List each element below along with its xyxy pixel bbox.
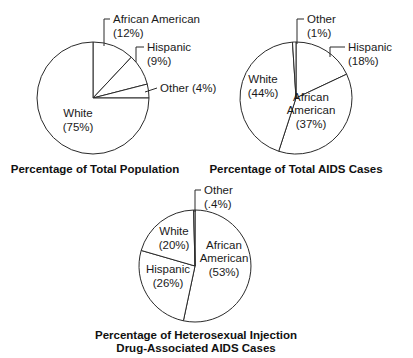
chart-title: Drug-Associated AIDS Cases — [116, 342, 275, 354]
slice-label-african-american: (12%) — [113, 27, 144, 39]
slice-label-white: (44%) — [248, 87, 279, 99]
pie-chart-percentage-of-total-population: African American(12%)Hispanic(9%)Other (… — [11, 13, 217, 175]
slice-label-hispanic: (18%) — [348, 55, 379, 67]
slice-label-african-american: American — [200, 252, 249, 264]
slice-label-african-american: American — [287, 104, 336, 116]
slice-label-other: Other (4%) — [160, 82, 216, 94]
chart-title: Percentage of Total Population — [11, 163, 179, 175]
slice-label-white: (75%) — [63, 121, 94, 133]
slice-label-hispanic: Hispanic — [147, 41, 191, 53]
slice-label-other: Other — [204, 184, 233, 196]
slice-label-african-american: African — [206, 239, 242, 251]
slice-label-hispanic: Hispanic — [146, 263, 190, 275]
slice-label-hispanic: (26%) — [153, 277, 184, 289]
slice-label-african-american: (37%) — [296, 118, 327, 130]
slice-label-white: White — [63, 107, 92, 119]
slice-label-white: White — [248, 73, 277, 85]
slice-label-hispanic: (9%) — [147, 55, 171, 67]
chart-title: Percentage of Heterosexual Injection — [95, 329, 297, 341]
pie-chart-percentage-of-total-aids-cases: Hispanic(18%)AfricanAmerican(37%)White(4… — [209, 13, 392, 175]
slice-label-other: (.4%) — [204, 198, 232, 210]
chart-title: Percentage of Total AIDS Cases — [209, 163, 382, 175]
slice-label-white: (20%) — [159, 239, 190, 251]
slice-label-african-american: (53%) — [209, 266, 240, 278]
leader-line-other — [195, 190, 201, 212]
slice-label-other: Other — [307, 13, 336, 25]
slice-label-white: White — [159, 225, 188, 237]
pie-charts-figure: African American(12%)Hispanic(9%)Other (… — [0, 0, 413, 358]
slice-label-hispanic: Hispanic — [348, 41, 392, 53]
pie-chart-percentage-of-heterosexual-injection-drug-associated-aids-cases: AfricanAmerican(53%)Hispanic(26%)White(2… — [95, 184, 297, 354]
leader-line-other — [297, 19, 304, 44]
leader-line-african-american — [104, 19, 110, 46]
leader-line-hispanic — [136, 47, 144, 62]
slice-label-other: (1%) — [307, 27, 331, 39]
slice-label-african-american: African American — [113, 13, 200, 25]
slice-label-african-american: African — [293, 91, 329, 103]
